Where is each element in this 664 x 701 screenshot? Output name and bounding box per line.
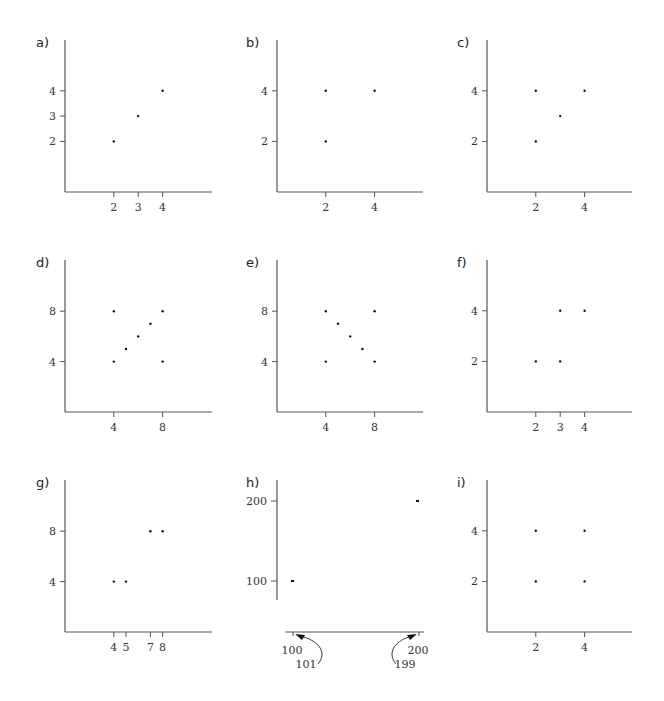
data-point [137,335,139,337]
y-tick-label: 2 [471,355,478,368]
x-tick-label: 4 [581,641,588,654]
panel-label: a) [36,35,49,50]
data-point [559,115,561,117]
data-point [535,530,537,532]
y-tick-label: 8 [49,525,56,538]
panel-label: c) [457,35,469,50]
data-point [535,140,537,142]
data-point [113,310,115,312]
data-point [161,360,163,362]
data-point [113,360,115,362]
x-tick-label: 4 [581,201,588,214]
panel-e: e)4848 [246,255,423,434]
data-point [161,90,163,92]
y-tick-label: 4 [471,85,478,98]
data-point [416,500,419,502]
panel-label: g) [36,475,49,490]
x-tick-label: 4 [581,421,588,434]
data-point [559,360,561,362]
y-tick-label: 4 [49,85,56,98]
data-point [113,580,115,582]
data-point [161,310,163,312]
panel-i: i)2424 [457,475,632,654]
x-tick-label: 4 [110,641,117,654]
panel-label: d) [36,255,49,270]
panel-g: g)457848 [36,475,212,654]
data-point [137,115,139,117]
annotation-label: 101 [296,658,317,671]
panel-f: f)23424 [457,255,632,434]
x-tick-label: 8 [159,641,166,654]
panel-label: e) [246,255,259,270]
annotation-label: 199 [395,658,416,671]
data-point [291,580,294,582]
data-point [535,90,537,92]
x-tick-label: 3 [135,201,142,214]
data-point [113,140,115,142]
panel-c: c)2424 [457,35,632,214]
y-tick-label: 100 [246,575,267,588]
panel-label: i) [457,475,466,490]
data-point [149,323,151,325]
panel-b: b)2424 [246,35,423,214]
data-point [325,140,327,142]
panel-label: h) [246,475,259,490]
panel-d: d)4848 [36,255,212,434]
data-point [583,310,585,312]
y-tick-label: 2 [49,135,56,148]
panel-label: b) [246,35,259,50]
y-tick-label: 4 [261,85,268,98]
y-tick-label: 4 [471,305,478,318]
data-point [325,310,327,312]
y-tick-label: 200 [246,495,267,508]
data-point [373,310,375,312]
data-point [583,530,585,532]
y-tick-label: 3 [49,110,56,123]
y-tick-label: 4 [49,356,56,369]
data-point [125,580,127,582]
x-tick-label: 3 [557,421,564,434]
x-tick-label: 8 [159,421,166,434]
data-point [161,530,163,532]
data-point [349,335,351,337]
data-point [535,580,537,582]
arrowhead-icon [407,634,417,640]
x-tick-label: 4 [159,201,166,214]
y-tick-label: 2 [471,575,478,588]
y-tick-label: 8 [261,305,268,318]
x-tick-label: 4 [110,421,117,434]
y-tick-label: 4 [471,525,478,538]
data-point [325,90,327,92]
data-point [337,323,339,325]
data-point [125,348,127,350]
data-point [559,310,561,312]
x-tick-label: 100 [282,644,303,657]
y-tick-label: 8 [49,305,56,318]
x-tick-label: 2 [532,641,539,654]
data-point [535,360,537,362]
panel-a: a)234234 [36,35,212,214]
x-tick-label: 8 [371,421,378,434]
data-point [583,90,585,92]
panel-label: f) [457,255,467,270]
arrowhead-icon [295,634,305,640]
data-point [361,348,363,350]
x-tick-label: 2 [532,201,539,214]
data-point [373,360,375,362]
x-tick-label: 2 [322,201,329,214]
data-point [325,360,327,362]
data-point [149,530,151,532]
x-tick-label: 4 [322,421,329,434]
x-tick-label: 2 [532,421,539,434]
y-tick-label: 4 [261,356,268,369]
panel-h: h) 200 100 100 200 101 199 [246,475,429,671]
y-tick-label: 2 [261,135,268,148]
data-point [583,580,585,582]
y-tick-label: 4 [49,576,56,589]
scatter-plot-grid: a)234234 b)2424 c)2424 d)4848 e)4848 f)2… [0,0,664,701]
data-point [373,90,375,92]
y-tick-label: 2 [471,135,478,148]
x-tick-label: 4 [371,201,378,214]
x-tick-label: 7 [147,641,154,654]
x-tick-label: 2 [110,201,117,214]
